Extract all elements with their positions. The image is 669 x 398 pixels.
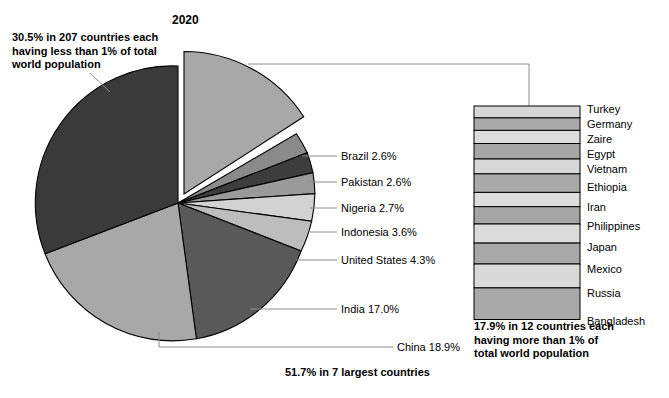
bar-label-egypt: Egypt [587, 148, 615, 160]
bar-label-bangladesh: Bangladesh [587, 315, 645, 327]
bar-label-russia: Russia [587, 287, 621, 299]
bar-segment-egypt[interactable] [474, 144, 580, 160]
bar-segment-philippines[interactable] [474, 207, 580, 224]
bar-segment-turkey[interactable] [474, 106, 580, 118]
bar-segment-germany[interactable] [474, 118, 580, 130]
bar-label-turkey: Turkey [587, 103, 620, 115]
pie-label-indonesia: Indonesia 3.6% [341, 226, 417, 238]
bar-segment-bangladesh[interactable] [474, 288, 580, 320]
pie-label-india: India 17.0% [341, 303, 399, 315]
pie-label-nigeria: Nigeria 2.7% [341, 202, 404, 214]
stacked-bar-chart [474, 106, 580, 320]
population-pie-figure: 2020 30.5% in 207 countries each having … [0, 0, 669, 398]
bar-label-ethiopia: Ethiopia [587, 181, 627, 193]
pie-label-united-states: United States 4.3% [341, 254, 435, 266]
pie-label-pakistan: Pakistan 2.6% [341, 176, 411, 188]
bar-label-iran: Iran [587, 201, 606, 213]
bar-label-mexico: Mexico [587, 263, 622, 275]
bar-label-japan: Japan [587, 241, 617, 253]
bar-label-germany: Germany [587, 118, 632, 130]
bar-segment-zaire[interactable] [474, 130, 580, 143]
bar-segment-mexico[interactable] [474, 243, 580, 264]
note-207-countries: 30.5% in 207 countries each having less … [12, 31, 158, 72]
chart-year-title: 2020 [172, 14, 199, 27]
bar-segment-iran[interactable] [474, 192, 580, 206]
pie-chart [35, 52, 315, 341]
pie-label-brazil: Brazil 2.6% [341, 150, 397, 162]
bar-label-vietnam: Vietnam [587, 163, 627, 175]
caption-seven-largest: 51.7% in 7 largest countries [285, 366, 430, 379]
bar-label-philippines: Philippines [587, 220, 640, 232]
bar-segment-vietnam[interactable] [474, 159, 580, 174]
pie-label-china: China 18.9% [397, 341, 460, 353]
bar-segment-ethiopia[interactable] [474, 174, 580, 193]
bar-label-zaire: Zaire [587, 133, 612, 145]
bar-segment-russia[interactable] [474, 264, 580, 288]
bar-segment-japan[interactable] [474, 224, 580, 243]
